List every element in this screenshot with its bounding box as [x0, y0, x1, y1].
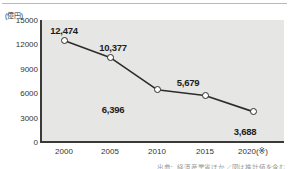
data-label: 5,679 — [177, 77, 199, 88]
x-tick-label: 2020(※) — [238, 147, 268, 156]
data-label: 12,474 — [50, 25, 77, 36]
data-point-marker — [154, 86, 161, 93]
data-point-marker — [61, 37, 68, 44]
series-line-layer — [0, 0, 289, 169]
x-tick-label: 2015 — [196, 147, 214, 156]
chart-figure: (億円) 15000 12000 9000 6000 3000 0 12,474… — [0, 0, 289, 169]
data-point-marker — [107, 54, 114, 61]
data-label: 3,688 — [234, 126, 256, 137]
x-tick-label: 2000 — [55, 147, 73, 156]
x-tick-label: 2005 — [101, 147, 119, 156]
source-note: 出典：経済産業省ほか／図は推計値を含む — [157, 162, 286, 169]
x-tick-label: 2010 — [148, 147, 166, 156]
data-point-marker — [202, 92, 209, 99]
data-point-marker — [250, 108, 257, 115]
series-line — [64, 40, 253, 111]
data-label: 6,396 — [102, 104, 124, 115]
data-label: 10,377 — [99, 42, 126, 53]
